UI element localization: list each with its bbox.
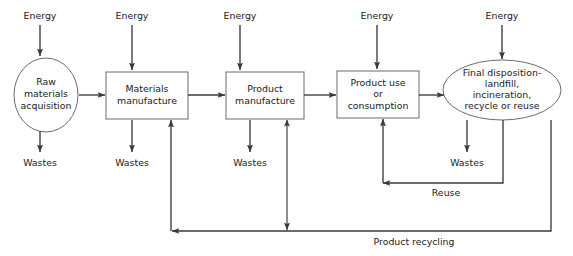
wastes-label-product-manufacture: Wastes xyxy=(233,157,267,168)
stage-label-line: manufacture xyxy=(117,95,177,106)
stage-label-line: incineration, xyxy=(473,89,532,100)
label-final-disposition: Final disposition- landfill, incineratio… xyxy=(463,67,542,111)
label-materials-manufacture: Materials manufacture xyxy=(117,83,177,106)
wastes-label-final-disposition: Wastes xyxy=(450,157,484,168)
stage-label-line: or xyxy=(373,88,383,99)
stage-label-line: materials xyxy=(24,88,68,99)
diagram-canvas: Raw materials acquisition Materials manu… xyxy=(0,0,573,256)
wastes-label-materials-manufacture: Wastes xyxy=(115,157,149,168)
energy-label-final-disposition: Energy xyxy=(486,10,519,21)
stage-label-line: manufacture xyxy=(235,95,295,106)
stage-label-line: landfill, xyxy=(485,78,519,89)
reuse-flow-label: Reuse xyxy=(432,187,461,198)
stage-label-line: acquisition xyxy=(21,100,72,111)
connector-product-recycling-loop xyxy=(172,120,551,231)
energy-label-product-manufacture: Energy xyxy=(224,10,257,21)
energy-label-raw-materials: Energy xyxy=(24,10,57,21)
product-recycling-flow-label: Product recycling xyxy=(374,236,455,247)
stage-label-line: Product xyxy=(247,83,283,94)
energy-label-materials-manufacture: Energy xyxy=(116,10,149,21)
wastes-label-raw-materials: Wastes xyxy=(23,157,57,168)
stage-label-line: Product use xyxy=(350,77,405,88)
stage-label-line: consumption xyxy=(348,100,409,111)
stage-label-line: Final disposition- xyxy=(463,67,542,78)
stage-label-line: recycle or reuse xyxy=(464,100,539,111)
connector-reuse-loop xyxy=(383,120,503,183)
lifecycle-flow-diagram: Raw materials acquisition Materials manu… xyxy=(0,0,573,256)
stage-label-line: Materials xyxy=(126,83,169,94)
energy-label-product-use: Energy xyxy=(361,10,394,21)
stage-label-line: Raw xyxy=(36,76,56,87)
